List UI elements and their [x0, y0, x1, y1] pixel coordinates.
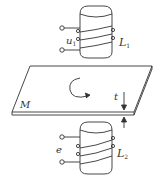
- voltage-label-u1: u1: [66, 35, 76, 47]
- metal-plate: [12, 66, 152, 115]
- plate-label-m: M: [19, 99, 31, 110]
- coil-top: [60, 6, 115, 58]
- thickness-label-t: t: [114, 91, 119, 102]
- terminal-icon: [60, 160, 64, 164]
- coil-label-l1: L1: [118, 36, 130, 49]
- terminal-icon: [60, 26, 64, 30]
- coil-bottom: [60, 122, 115, 174]
- terminal-icon: [60, 135, 64, 139]
- terminal-icon: [60, 48, 64, 52]
- thickness-indicator: [122, 92, 127, 128]
- eddy-current-diagram: u1 L1 M t e L2: [0, 0, 160, 180]
- coil-label-l2: L2: [116, 147, 128, 160]
- voltage-label-e: e: [56, 144, 62, 155]
